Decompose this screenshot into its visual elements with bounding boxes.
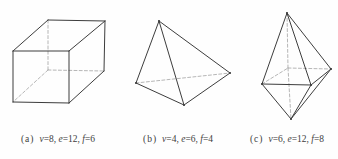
octahedron-edge xyxy=(287,13,331,69)
caption-label: (a) xyxy=(21,134,35,144)
octahedron-vertex-dot xyxy=(330,68,332,70)
caption-symbol: f xyxy=(200,134,203,144)
tetrahedron-edge xyxy=(159,21,184,105)
octahedron-vertex-dot xyxy=(290,118,292,120)
octahedron-edge xyxy=(291,85,311,119)
tetrahedron-vertex-dot xyxy=(183,104,185,106)
caption-symbol: v xyxy=(162,134,166,144)
cube-edge xyxy=(104,21,105,71)
caption-label: (b) xyxy=(143,134,157,144)
octahedron-shape xyxy=(261,12,332,120)
tetrahedron-shape xyxy=(135,20,231,106)
caption-octahedron: (c)v=6, e=12, f=8 xyxy=(237,133,337,145)
caption-symbol: v xyxy=(39,134,43,144)
cube-edge xyxy=(13,20,48,51)
octahedron-hidden-edge xyxy=(288,68,291,119)
caption-cube: (a)v=8, e=12, f=6 xyxy=(8,133,108,145)
tetrahedron-vertex-dot xyxy=(158,20,160,22)
tetrahedron-vertex-dot xyxy=(135,82,137,84)
caption-symbol: e xyxy=(59,134,63,144)
cube-hidden-edge xyxy=(13,70,48,102)
tetrahedron-hidden-edge xyxy=(136,73,230,83)
octahedron-edge xyxy=(262,13,287,84)
cube-edge xyxy=(69,71,104,103)
caption-symbol: v xyxy=(268,134,272,144)
octahedron-hidden-edge xyxy=(288,68,331,69)
octahedron-edge xyxy=(287,13,311,85)
cube-edge xyxy=(13,102,69,103)
octahedron-edge xyxy=(291,69,331,119)
octahedron-vertex-dot xyxy=(286,12,288,14)
caption-symbol: f xyxy=(82,134,85,144)
caption-symbol: e xyxy=(288,134,292,144)
cube-shape xyxy=(13,20,105,103)
polyhedra-diagram: (a)v=8, e=12, f=6 (b)v=4, e=6, f=4 (c)v=… xyxy=(0,0,338,159)
tetrahedron-edge xyxy=(184,73,230,105)
cube-edge xyxy=(69,21,105,51)
octahedron-hidden-edge xyxy=(287,13,288,68)
tetrahedron-edge xyxy=(159,21,230,73)
caption-tetrahedron: (b)v=4, e=6, f=4 xyxy=(128,133,228,145)
caption-symbol: e xyxy=(181,134,185,144)
tetrahedron-edge xyxy=(136,83,184,105)
caption-symbol: f xyxy=(311,134,314,144)
octahedron-vertex-dot xyxy=(261,83,263,85)
octahedron-edge xyxy=(262,84,291,119)
tetrahedron-vertex-dot xyxy=(229,72,231,74)
cube-hidden-edge xyxy=(48,70,104,71)
octahedron-vertex-dot xyxy=(310,84,312,86)
octahedron-hidden-edge xyxy=(262,68,288,84)
octahedron-edge xyxy=(262,84,311,85)
octahedron-edge xyxy=(311,69,331,85)
tetrahedron-edge xyxy=(136,21,159,83)
caption-label: (c) xyxy=(250,134,264,144)
cube-edge xyxy=(48,20,105,21)
